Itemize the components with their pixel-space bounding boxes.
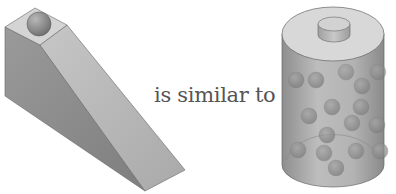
terminal-cap-top [318, 17, 350, 31]
battery-with-charges-illustration [270, 0, 396, 194]
ball-icon [27, 12, 51, 36]
connector-text: is similar to [154, 83, 275, 107]
